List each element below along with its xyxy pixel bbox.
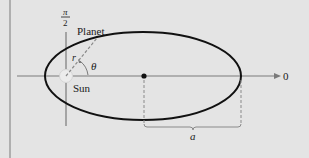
polar-axis-arrow-icon (274, 73, 281, 79)
semi-major-axis-label: a (190, 130, 196, 142)
ellipse-center-point (141, 73, 146, 78)
sun-label: Sun (73, 82, 91, 94)
planet-label: Planet (77, 25, 105, 37)
half-pi-numerator: π (63, 7, 68, 17)
half-pi-denominator: 2 (63, 18, 68, 28)
theta-label: θ (91, 60, 97, 72)
orbit-diagram: 0 π 2 r θ Planet Sun a (0, 0, 309, 158)
polar-axis-label: 0 (283, 70, 289, 82)
radius-label: r (72, 52, 76, 63)
theta-arc (80, 61, 88, 75)
